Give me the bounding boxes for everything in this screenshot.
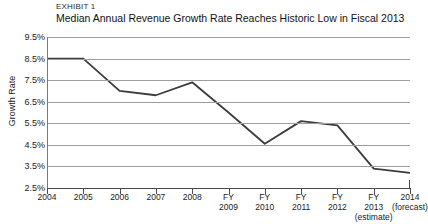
x-axis-tick-label: 2014(forecast) xyxy=(392,192,428,212)
y-axis-tick-label: 4.5% xyxy=(1,140,45,150)
y-axis-tick-label: 5.5% xyxy=(1,118,45,128)
x-axis-tick-label: FY2011 xyxy=(292,192,310,212)
x-axis-tick-label: 2007 xyxy=(146,192,165,202)
x-axis-tick-label: FY2009 xyxy=(219,192,238,212)
gridline xyxy=(47,166,410,167)
data-line-series xyxy=(47,37,410,188)
y-axis-tick-label: 3.5% xyxy=(1,161,45,171)
y-axis-tick-label: 6.5% xyxy=(1,97,45,107)
x-axis-tick-label: 2006 xyxy=(110,192,129,202)
x-axis-tick-label: FY2013(estimate) xyxy=(355,192,393,222)
x-axis-tick-label: 2005 xyxy=(74,192,93,202)
chart-title: Median Annual Revenue Growth Rate Reache… xyxy=(56,12,404,24)
gridline xyxy=(47,80,410,81)
exhibit-label: EXHIBIT 1 xyxy=(56,2,95,11)
x-axis-tick-label: 2008 xyxy=(183,192,202,202)
gridline xyxy=(47,59,410,60)
plot-area xyxy=(47,37,410,188)
x-axis-tick-label: 2004 xyxy=(38,192,57,202)
x-axis-tick-label: FY2010 xyxy=(255,192,274,212)
x-axis-tick-label: FY2012 xyxy=(328,192,347,212)
y-axis-tick-label: 9.5% xyxy=(1,32,45,42)
y-axis-tick-labels: 9.5%8.5%7.5%6.5%5.5%4.5%3.5%2.5% xyxy=(0,37,45,188)
y-axis-tick-label: 7.5% xyxy=(1,75,45,85)
y-axis-line xyxy=(47,37,48,189)
y-axis-tick-label: 8.5% xyxy=(1,54,45,64)
gridline xyxy=(47,37,410,38)
gridline xyxy=(47,145,410,146)
gridline xyxy=(47,123,410,124)
gridline xyxy=(47,102,410,103)
